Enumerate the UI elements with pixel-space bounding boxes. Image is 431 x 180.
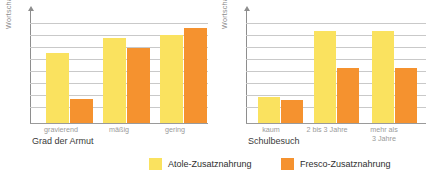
x-axis-line-left bbox=[30, 123, 208, 124]
legend-item-atole: Atole-Zusatznahrung bbox=[149, 158, 252, 170]
x-tick-label: 2 bis 3 Jahre bbox=[294, 126, 360, 135]
plot-area-left bbox=[30, 14, 208, 124]
bar-series-left bbox=[30, 14, 208, 123]
bar-group-mehr-als-3-jahre bbox=[372, 14, 420, 123]
bar-atole bbox=[372, 31, 394, 123]
x-tick-label: mäßig bbox=[87, 126, 151, 135]
plot-area-right bbox=[246, 14, 426, 124]
chart-panel-poverty: Wortschatz bbox=[2, 8, 214, 153]
x-axis-title-right: Schulbesuch bbox=[248, 136, 300, 146]
bar-group-gering bbox=[160, 14, 210, 123]
x-tick-label: gering bbox=[143, 126, 207, 135]
x-axis-title-left: Grad der Armut bbox=[32, 136, 94, 146]
bar-atole bbox=[258, 97, 280, 123]
bar-atole bbox=[103, 38, 126, 123]
legend-swatch-icon bbox=[149, 158, 162, 170]
bar-group-gravierend bbox=[46, 14, 96, 123]
legend-item-fresco: Fresco-Zusatznahrung bbox=[281, 158, 391, 170]
bar-atole bbox=[314, 31, 336, 123]
chart-panel-schooling: Wortschatz bbox=[218, 8, 428, 153]
bar-fresco bbox=[184, 28, 207, 123]
chart-legend: Atole-Zusatznahrung Fresco-Zusatznahrung bbox=[0, 158, 431, 174]
bar-fresco bbox=[281, 100, 303, 123]
x-tick-label: kaum bbox=[240, 126, 302, 135]
bar-fresco bbox=[70, 99, 93, 123]
bar-atole bbox=[160, 35, 183, 123]
x-tick-label: mehr als 3 Jahre bbox=[354, 126, 414, 143]
bar-fresco bbox=[127, 48, 150, 123]
y-axis-label-left: Wortschatz bbox=[4, 0, 13, 40]
bar-group-maessig bbox=[103, 14, 153, 123]
x-axis-line-right bbox=[246, 123, 426, 124]
bar-fresco bbox=[337, 68, 359, 123]
bar-fresco bbox=[395, 68, 417, 123]
bar-group-2-bis-3-jahre bbox=[314, 14, 362, 123]
legend-label: Fresco-Zusatznahrung bbox=[300, 159, 391, 169]
bar-series-right bbox=[246, 14, 426, 123]
legend-swatch-icon bbox=[281, 158, 294, 170]
bar-atole bbox=[46, 53, 69, 123]
legend-label: Atole-Zusatznahrung bbox=[168, 159, 252, 169]
bar-group-kaum bbox=[258, 14, 306, 123]
y-axis-label-right: Wortschatz bbox=[220, 0, 229, 40]
x-tick-label: gravierend bbox=[28, 126, 94, 135]
chart-figure: Wortschatz bbox=[0, 0, 431, 180]
